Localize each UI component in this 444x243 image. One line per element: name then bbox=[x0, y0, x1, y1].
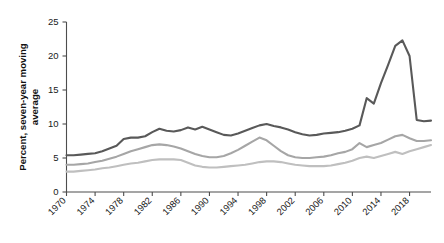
y-axis-title: Percent, seven-year movingaverage bbox=[17, 43, 40, 171]
x-tick-label: 2018 bbox=[389, 195, 411, 217]
y-tick-label: 25 bbox=[48, 16, 59, 27]
series-line-series-medium bbox=[67, 135, 432, 165]
x-tick-label: 1998 bbox=[246, 195, 268, 217]
y-axis-title-line1: Percent, seven-year moving bbox=[17, 43, 28, 171]
x-tick-label: 2014 bbox=[361, 195, 383, 217]
y-axis-title-line2: average bbox=[29, 89, 40, 125]
x-tick-label: 1982 bbox=[132, 195, 154, 217]
x-tick-label: 1974 bbox=[75, 195, 97, 217]
x-tick-label: 2002 bbox=[275, 195, 297, 217]
x-tick-label: 1990 bbox=[189, 195, 211, 217]
x-axis: 1970197419781982198619901994199820022006… bbox=[46, 192, 431, 217]
y-tick-label: 15 bbox=[48, 84, 59, 95]
y-tick-label: 5 bbox=[53, 152, 58, 163]
x-tick-label: 1986 bbox=[161, 195, 183, 217]
x-tick-label: 2010 bbox=[332, 195, 354, 217]
y-axis: 0510152025 bbox=[48, 16, 67, 197]
y-tick-label: 10 bbox=[48, 118, 59, 129]
series-layer bbox=[67, 40, 432, 171]
series-line-series-dark bbox=[67, 40, 432, 155]
x-tick-label: 1978 bbox=[103, 195, 125, 217]
series-line-series-light bbox=[67, 145, 432, 172]
chart-container: 0510152025 19701974197819821986199019941… bbox=[0, 0, 444, 243]
y-tick-label: 20 bbox=[48, 50, 59, 61]
line-chart: 0510152025 19701974197819821986199019941… bbox=[0, 0, 444, 243]
x-tick-label: 1970 bbox=[46, 195, 68, 217]
y-tick-label: 0 bbox=[53, 186, 58, 197]
x-tick-label: 2006 bbox=[304, 195, 326, 217]
x-tick-label: 1994 bbox=[218, 195, 240, 217]
